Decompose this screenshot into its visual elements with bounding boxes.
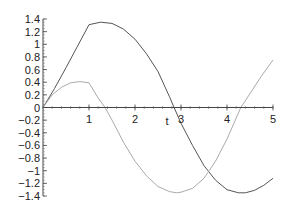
y-tick-label: 1.4 xyxy=(25,13,40,25)
x-tick-label: 4 xyxy=(224,113,230,125)
y-tick-label: 1.2 xyxy=(25,26,40,38)
x-tick-label: 1 xyxy=(86,113,92,125)
y-tick-label: 0.8 xyxy=(25,51,40,63)
line-chart: 123451.41.210.80.60.40.20−0.2−0.4−0.6−0.… xyxy=(0,0,293,212)
y-tick-label: −1 xyxy=(27,165,40,177)
y-tick-label: −1.4 xyxy=(18,190,40,202)
y-tick-label: −0.6 xyxy=(18,139,40,151)
axes: 123451.41.210.80.60.40.20−0.2−0.4−0.6−0.… xyxy=(18,13,276,202)
y-tick-label: 0.2 xyxy=(25,89,40,101)
y-tick-label: 0 xyxy=(34,102,40,114)
x-tick-label: 2 xyxy=(132,113,138,125)
x-axis-label: t xyxy=(165,115,168,127)
series-curve-2 xyxy=(43,60,273,193)
y-tick-label: 1 xyxy=(34,38,40,50)
y-tick-label: 0.6 xyxy=(25,64,40,76)
y-tick-label: −0.2 xyxy=(18,114,40,126)
y-tick-label: 0.4 xyxy=(25,76,40,88)
x-tick-label: 5 xyxy=(270,113,276,125)
y-tick-label: −0.8 xyxy=(18,152,40,164)
y-tick-label: −1.2 xyxy=(18,177,40,189)
y-tick-label: −0.4 xyxy=(18,127,40,139)
x-tick-label: 3 xyxy=(178,113,184,125)
